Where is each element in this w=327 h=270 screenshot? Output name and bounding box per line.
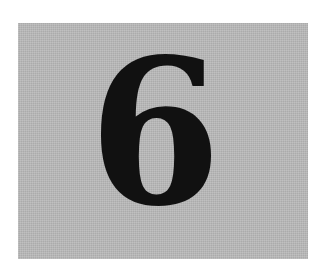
- numeral-six: 6: [17, 53, 293, 213]
- numeral-panel: 6: [18, 23, 308, 259]
